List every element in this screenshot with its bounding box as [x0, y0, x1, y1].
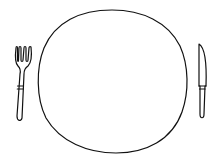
fork-icon [15, 47, 31, 121]
plate-icon [38, 10, 187, 153]
knife-icon [199, 44, 206, 118]
